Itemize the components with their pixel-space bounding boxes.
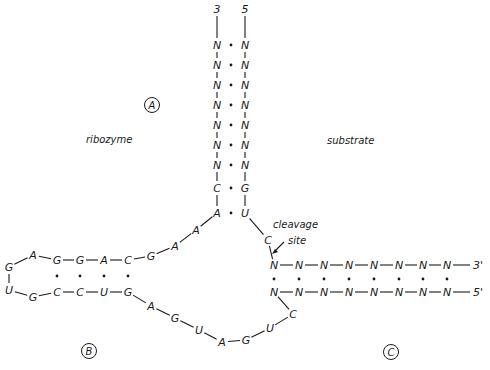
bond-line [134, 257, 145, 259]
bond-line [250, 218, 264, 234]
base-pair-dot [373, 278, 376, 281]
bond-line [275, 317, 288, 325]
stem-b-top-nt: A [28, 249, 37, 262]
stem-b-bottom-nt: C [289, 308, 297, 321]
base-pair-dot [56, 275, 59, 278]
base-pair-dot [230, 104, 233, 107]
site-label: site [288, 235, 306, 246]
stem-a-left-nt: A [212, 207, 221, 220]
stem-c-top-nt: N [395, 259, 403, 272]
stem-b-top-nt: G [76, 254, 85, 267]
base-pair-dot [230, 84, 233, 87]
stem-a-right-nt: G [241, 182, 250, 195]
base-pair-dot [446, 278, 449, 281]
bond-line [39, 256, 51, 259]
stem-c-bottom-end: 5' [473, 286, 483, 299]
base-pair-dot [230, 212, 233, 215]
base-pair-dot [298, 278, 301, 281]
bond-line [180, 234, 191, 243]
base-pair-dot [230, 44, 233, 47]
stem-b-bottom-nt: U [266, 322, 274, 335]
bond-line [269, 246, 272, 259]
stem-b-bottom-nt: U [195, 324, 203, 337]
stem-b-top-nt: G [53, 254, 62, 267]
stem-b-bottom-nt: A [146, 300, 155, 313]
base-pair-dot [230, 144, 233, 147]
stem-c-bottom-nt: N [443, 286, 451, 299]
stem-b-top-nt: A [99, 254, 108, 267]
bond-line [278, 297, 289, 310]
stem-c-top-end: 3' [473, 259, 483, 272]
base-pair-dot [273, 278, 276, 281]
stem-b-top-nt: G [147, 250, 156, 263]
stem-b-top-nt: G [5, 261, 14, 274]
cleavage-nt-c: C [264, 234, 272, 247]
bond-line [14, 258, 27, 265]
stem-a-right-nt: N [241, 99, 249, 112]
stem-a-right-nt: N [241, 59, 249, 72]
stem-c-top-nt: N [419, 259, 427, 272]
region-b-label: B [86, 346, 93, 357]
stem-a-left-nt: C [213, 182, 221, 195]
ribozyme-diagram: 35NNNNNNNNNNNNNNCGAUGAGGACGAAUGCCUGAGUAG… [0, 0, 490, 370]
stem-a-right-nt: N [241, 139, 249, 152]
stem-b-top-nt: A [170, 240, 179, 253]
region-c-label: C [388, 347, 395, 358]
stem-a-right-end: 5 [242, 3, 249, 16]
stem-b-bottom-nt: G [242, 334, 251, 347]
stem-a-left-nt: N [213, 119, 221, 132]
stem-c-bottom-nt: N [270, 286, 278, 299]
stem-c-bottom-nt: N [419, 286, 427, 299]
stem-c-top-nt: N [320, 259, 328, 272]
stem-b-bottom-nt: G [124, 286, 133, 299]
bond-line [39, 293, 51, 296]
bond-line [204, 333, 216, 339]
stem-a-left-end: 3 [214, 3, 221, 16]
base-pair-dot [230, 124, 233, 127]
stem-b-bottom-nt: C [53, 286, 61, 299]
stem-a-left-nt: N [213, 39, 221, 52]
stem-c-top-nt: N [370, 259, 378, 272]
stem-a-right-nt: N [241, 119, 249, 132]
stem-a-left-nt: N [213, 59, 221, 72]
stem-b-bottom-nt: C [76, 286, 84, 299]
base-pair-dot [398, 278, 401, 281]
stem-c-top-nt: N [270, 259, 278, 272]
bond-line [180, 321, 193, 328]
ribozyme-label: ribozyme [86, 134, 132, 145]
region-a-label: A [148, 100, 156, 111]
stem-b-bottom-nt: G [29, 291, 38, 304]
stem-c-top-nt: N [295, 259, 303, 272]
stem-a-left-nt: N [213, 159, 221, 172]
base-pair-dot [103, 275, 106, 278]
base-pair-dot [348, 278, 351, 281]
bond-line [156, 309, 169, 316]
base-pair-dot [230, 187, 233, 190]
base-pair-dot [79, 275, 82, 278]
cleavage-arrow-icon [275, 242, 284, 251]
stem-c-bottom-nt: N [295, 286, 303, 299]
stem-a-left-nt: N [213, 99, 221, 112]
stem-a-right-nt: N [241, 159, 249, 172]
stem-c-bottom-nt: N [395, 286, 403, 299]
stem-b-bottom-nt: A [217, 336, 226, 349]
stem-b-bottom-nt: U [100, 286, 108, 299]
stem-a-right-nt: N [241, 79, 249, 92]
stem-a-left-nt: N [213, 79, 221, 92]
bond-line [133, 295, 146, 303]
base-pair-dot [230, 164, 233, 167]
stem-a-right-nt: U [241, 207, 249, 220]
stem-c-bottom-nt: N [320, 286, 328, 299]
stem-b-bottom-nt: U [5, 284, 13, 297]
base-pair-dot [422, 278, 425, 281]
stem-b-top-nt: A [191, 224, 200, 237]
base-pair-dot [323, 278, 326, 281]
bond-line [201, 217, 213, 226]
bond-line [251, 331, 264, 338]
bond-line [228, 340, 240, 341]
stem-a-left-nt: N [213, 139, 221, 152]
cleavage-arrowhead-icon [272, 249, 278, 254]
stem-c-bottom-nt: N [345, 286, 353, 299]
bond-line [157, 248, 170, 253]
base-pair-dot [127, 275, 130, 278]
